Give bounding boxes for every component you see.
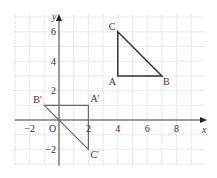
x-tick-label: 2: [86, 123, 91, 134]
y-axis-label: y: [51, 11, 57, 22]
x-tick-label: 4: [115, 123, 120, 134]
vertex-label: C: [109, 21, 116, 32]
vertex-label: A': [90, 93, 99, 104]
y-tick-label: 6: [51, 26, 56, 37]
x-tick-label: −2: [24, 123, 35, 134]
y-axis-arrow-icon: [56, 14, 62, 21]
vertex-label: C': [90, 149, 99, 160]
coordinate-plane: xyO−22468642−2ABCA'B'C': [0, 0, 217, 178]
labels: xyO−22468642−2ABCA'B'C': [24, 11, 207, 160]
vertex-label: B: [163, 76, 170, 87]
y-tick-label: 4: [51, 56, 56, 67]
x-tick-label: 6: [145, 123, 150, 134]
triangle-abc: [118, 32, 162, 76]
vertex-label: A: [109, 76, 117, 87]
y-tick-label: −2: [45, 144, 56, 155]
x-tick-label: 8: [174, 123, 179, 134]
y-tick-label: 2: [51, 85, 56, 96]
axes: [15, 14, 207, 166]
origin-label: O: [49, 123, 56, 134]
x-axis-arrow-icon: [200, 117, 207, 123]
x-axis-label: x: [201, 124, 207, 135]
grid: [15, 15, 205, 166]
vertex-label: B': [33, 94, 42, 105]
